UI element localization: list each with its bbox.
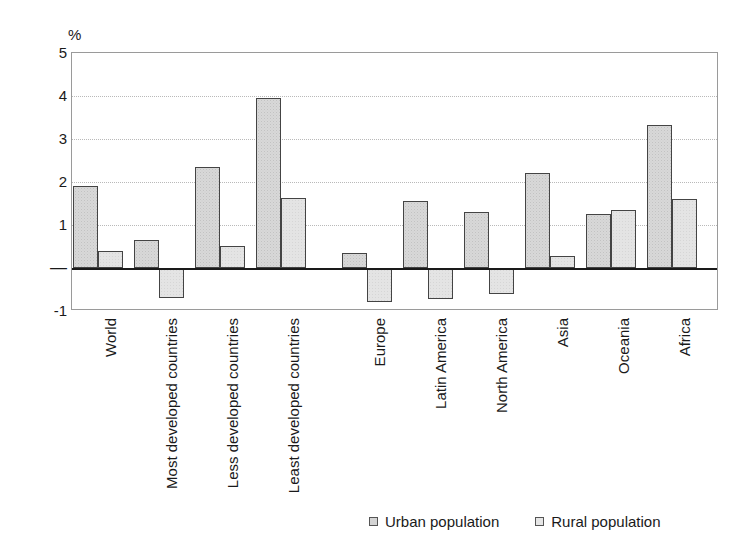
bar-rural bbox=[428, 268, 453, 299]
bar-rural bbox=[98, 251, 123, 268]
legend-item-rural[interactable]: Rural population bbox=[535, 513, 660, 530]
bar-urban bbox=[525, 173, 550, 268]
bar-urban bbox=[195, 167, 220, 268]
bar-rural bbox=[550, 256, 575, 268]
y-axis-tick-label: 2 bbox=[33, 174, 67, 189]
bar-rural bbox=[489, 268, 514, 294]
y-axis-unit-label: % bbox=[68, 26, 82, 43]
x-axis-label: Africa bbox=[677, 318, 692, 356]
bar-urban bbox=[464, 212, 489, 268]
bar-rural bbox=[281, 198, 306, 268]
y-axis-tick-label: — bbox=[33, 259, 67, 276]
bar-rural bbox=[672, 199, 697, 268]
y-axis-tick-label: 1 bbox=[33, 217, 67, 232]
legend-swatch-rural-icon bbox=[535, 517, 544, 526]
y-axis-tick-labels: 54321—-1 bbox=[27, 52, 67, 310]
x-axis-category-labels: WorldMost developed countriesLess develo… bbox=[71, 310, 718, 510]
zero-baseline bbox=[72, 268, 717, 270]
x-axis-label: Least developed countries bbox=[286, 318, 301, 493]
bar-rural bbox=[220, 246, 245, 268]
bar-rural bbox=[159, 268, 184, 298]
bar-rural bbox=[367, 268, 392, 302]
bar-urban bbox=[586, 214, 611, 268]
bar-urban bbox=[134, 240, 159, 268]
bar-urban bbox=[256, 98, 281, 268]
bar-rural bbox=[611, 210, 636, 268]
x-axis-label: Oceania bbox=[616, 318, 631, 374]
legend-label-urban: Urban population bbox=[385, 513, 499, 530]
bar-urban bbox=[647, 125, 672, 268]
legend-label-rural: Rural population bbox=[551, 513, 660, 530]
x-axis-label: World bbox=[103, 318, 118, 357]
y-axis-tick-label: 5 bbox=[33, 45, 67, 60]
population-growth-bar-chart: % 54321—-1 WorldMost developed countries… bbox=[0, 0, 753, 560]
x-axis-label: Most developed countries bbox=[164, 318, 179, 489]
y-axis-tick-label: 3 bbox=[33, 131, 67, 146]
legend-item-urban[interactable]: Urban population bbox=[369, 513, 499, 530]
plot-area bbox=[71, 52, 718, 310]
legend-swatch-urban-icon bbox=[369, 517, 378, 526]
bar-urban bbox=[403, 201, 428, 268]
bar-urban bbox=[73, 186, 98, 268]
y-axis-tick-label: -1 bbox=[33, 303, 67, 318]
x-axis-label: Latin America bbox=[433, 318, 448, 409]
x-axis-label: Asia bbox=[555, 318, 570, 347]
y-axis-tick-label: 4 bbox=[33, 88, 67, 103]
bars-layer bbox=[72, 53, 717, 309]
x-axis-label: North America bbox=[494, 318, 509, 413]
bar-urban bbox=[342, 253, 367, 268]
x-axis-label: Europe bbox=[372, 318, 387, 366]
chart-legend: Urban population Rural population bbox=[369, 513, 661, 530]
x-axis-label: Less developed countries bbox=[225, 318, 240, 488]
